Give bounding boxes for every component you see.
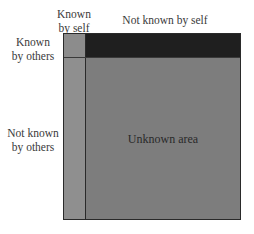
header-line: Not known	[5, 126, 61, 140]
row-header-not-known-by-others: Not known by others	[5, 126, 61, 154]
header-line: by others	[8, 49, 58, 63]
grid-frame	[63, 33, 241, 220]
header-line: Not known by self	[122, 14, 207, 26]
unknown-area-label: Unknown area	[85, 132, 241, 146]
header-line: by others	[5, 140, 61, 154]
column-header-not-known-by-self: Not known by self	[100, 13, 230, 27]
header-line: Known	[8, 35, 58, 49]
column-header-known-by-self: Known by self	[56, 7, 92, 35]
row-header-known-by-others: Known by others	[8, 35, 58, 63]
header-line: Known	[56, 7, 92, 21]
